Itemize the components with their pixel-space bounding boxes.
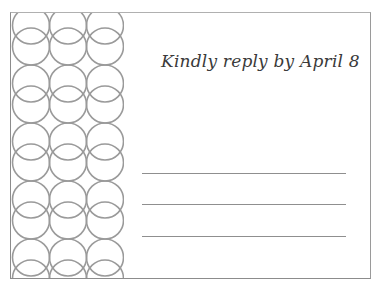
- rsvp-card: Kindly reply by April 8: [10, 12, 371, 279]
- reply-line-2[interactable]: [142, 204, 346, 205]
- reply-by-message: Kindly reply by April 8: [161, 51, 361, 71]
- circle-pattern-decoration: [11, 13, 124, 279]
- reply-line-3[interactable]: [142, 236, 346, 237]
- reply-line-1[interactable]: [142, 173, 346, 174]
